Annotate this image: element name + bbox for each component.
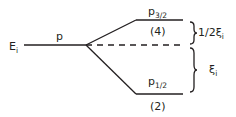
lower-degeneracy: (2) — [150, 100, 166, 113]
orbital-label: p — [56, 30, 63, 43]
spin-orbit-splitting-diagram: Ei p p3/2 (4) p1/2 (2) 1/2ξi ξi — [0, 0, 236, 117]
upper-degeneracy: (4) — [150, 25, 166, 38]
upper-split-line — [86, 20, 136, 45]
initial-energy-label: Ei — [9, 40, 18, 55]
upper-level-label: p3/2 — [148, 5, 167, 20]
lower-split-line — [86, 45, 136, 94]
lower-gap-brace — [190, 48, 197, 92]
lower-level-label: p1/2 — [148, 75, 167, 90]
lower-gap-label: ξi — [209, 63, 217, 78]
upper-gap-brace — [190, 22, 197, 44]
upper-gap-label: 1/2ξi — [198, 26, 224, 41]
